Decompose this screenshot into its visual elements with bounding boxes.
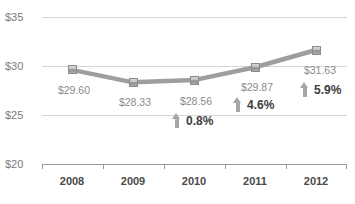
data-point-2008	[68, 65, 77, 74]
series-line	[0, 0, 355, 204]
x-axis-label-2008: 2008	[60, 175, 84, 187]
up-arrow-icon	[233, 97, 242, 112]
value-label-2011: $29.87	[241, 81, 273, 93]
data-point-2011	[251, 63, 260, 72]
x-axis-label-2011: 2011	[243, 175, 267, 187]
data-point-2010	[190, 76, 199, 85]
growth-annotation-2010: 0.8%	[172, 113, 213, 128]
growth-value-2010: 0.8%	[186, 114, 213, 128]
x-axis-label-2012: 2012	[304, 175, 328, 187]
growth-value-2012: 5.9%	[314, 83, 341, 97]
value-label-2012: $31.63	[304, 64, 336, 76]
growth-annotation-2012: 5.9%	[300, 82, 341, 97]
up-arrow-icon	[300, 82, 309, 97]
data-point-2012	[312, 46, 321, 55]
value-label-2008: $29.60	[58, 84, 90, 96]
line-chart: $35 $30 $25 $20 $29.60 $28.33 $28.56 $29…	[0, 0, 355, 204]
value-label-2010: $28.56	[180, 95, 212, 107]
x-axis-label-2009: 2009	[121, 175, 145, 187]
growth-annotation-2011: 4.6%	[233, 97, 274, 112]
growth-value-2011: 4.6%	[247, 98, 274, 112]
x-axis-label-2010: 2010	[182, 175, 206, 187]
data-point-2009	[129, 78, 138, 87]
value-label-2009: $28.33	[119, 96, 151, 108]
up-arrow-icon	[172, 113, 181, 128]
